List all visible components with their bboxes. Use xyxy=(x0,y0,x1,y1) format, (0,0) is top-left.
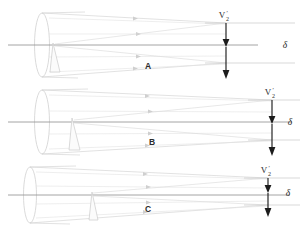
panel-a-wedge-prism xyxy=(50,43,60,72)
panel-a-arrowhead-lower xyxy=(223,70,230,79)
panel-b-ray-3 xyxy=(49,133,272,134)
panel-b-barrel-top xyxy=(42,89,88,90)
panel-b-ray-arrowhead-2 xyxy=(148,110,153,114)
panel-b-deviated-lower xyxy=(74,123,272,140)
panel-a-letter-label: A xyxy=(145,61,151,71)
panel-a-deviated-upper xyxy=(55,23,226,44)
panel-b-deviated-upper xyxy=(74,100,272,120)
panel-c-ray-4 xyxy=(36,206,268,218)
panel-b-v2-prime-label: V 2 ′ xyxy=(265,86,275,99)
panel-a-v2-prime-label: V 2 ′ xyxy=(219,9,229,22)
panel-b-letter-label: B xyxy=(149,137,155,147)
panel-c-deviated-lower xyxy=(93,196,268,205)
panel-c-ray-1 xyxy=(36,172,268,179)
panel-a-barrel-top xyxy=(42,12,85,13)
panel-c-v-symbol: V xyxy=(261,165,268,175)
panel-b-v-subscript: 2 xyxy=(272,93,275,99)
panel-c-ray-3 xyxy=(36,201,268,204)
panel-a-ray-1 xyxy=(49,18,226,24)
panel-b-arrowhead-lower xyxy=(269,147,276,156)
panel-a-v-symbol: V xyxy=(219,10,226,20)
panel-c-barrel-bottom xyxy=(30,223,70,224)
panel-a-deviated-lower xyxy=(55,46,226,63)
panel-a-ray-arrowhead-1 xyxy=(133,17,138,21)
panel-c-group: V 2 ′ δ C xyxy=(8,164,300,225)
panel-a-v-prime: ′ xyxy=(227,9,229,16)
panel-b-barrel-bottom xyxy=(42,154,80,155)
panel-a-arrowhead-upper xyxy=(223,39,230,47)
panel-c-delta-label: δ xyxy=(286,188,291,198)
panel-c-v-prime: ′ xyxy=(269,164,271,171)
panel-a-group: V 2 ′ δ A xyxy=(8,9,295,80)
panel-b-group: V 2 ′ δ B xyxy=(8,86,300,157)
panel-b-v-prime: ′ xyxy=(273,86,275,93)
panel-c-arrowhead-lower xyxy=(265,208,272,217)
panel-b-arrowhead-upper xyxy=(269,116,276,124)
panel-a-v-subscript: 2 xyxy=(226,16,229,22)
panel-c-cone-upper-edge xyxy=(30,167,268,178)
panel-c-v-subscript: 2 xyxy=(268,171,271,177)
panel-b-delta-label: δ xyxy=(288,117,293,127)
optical-ray-diagram-figure: V 2 ′ δ A xyxy=(0,0,303,232)
panel-b-v-symbol: V xyxy=(265,87,272,97)
panel-c-v2-prime-label: V 2 ′ xyxy=(261,164,271,177)
panel-a-ray-arrowhead-3 xyxy=(136,55,141,59)
panel-a-delta-label: δ xyxy=(283,40,288,50)
panel-b-cone-upper-edge xyxy=(42,90,272,100)
panel-c-deviated-upper xyxy=(93,178,268,193)
panel-a-ray-4 xyxy=(49,64,226,72)
panel-c-arrowhead-upper xyxy=(265,185,272,193)
panel-b-ray-1 xyxy=(49,95,272,101)
panel-c-letter-label: C xyxy=(145,204,151,214)
panel-b-ray-arrowhead-3 xyxy=(148,132,153,136)
panel-c-barrel-top xyxy=(30,166,76,167)
panel-b-ray-4 xyxy=(49,141,272,149)
diagram-canvas: V 2 ′ δ A xyxy=(0,0,303,232)
panel-a-barrel-bottom xyxy=(42,77,78,78)
